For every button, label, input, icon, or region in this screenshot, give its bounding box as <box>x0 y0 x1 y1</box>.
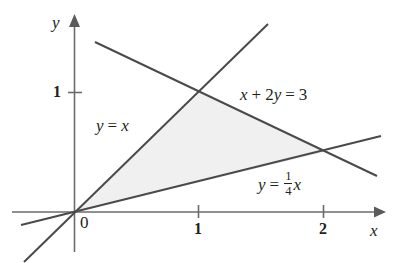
x-axis-label: x <box>370 222 378 239</box>
annotation-y-equals-x-lhs: y <box>96 116 104 135</box>
annotation-x-plus-2y-equals-3: x+2y=3 <box>240 86 307 103</box>
annotation-y-equals-quarter-x: y=14x <box>258 170 301 198</box>
annotation-op-equals: = <box>285 85 295 104</box>
y-axis-arrow-icon <box>69 14 80 27</box>
graph-canvas <box>0 0 412 263</box>
x-tick-label-2: 2 <box>319 221 327 237</box>
annotation-y-equals-x-rhs: x <box>121 116 129 135</box>
origin-label: 0 <box>80 214 89 231</box>
annotation-op-plus: + <box>252 85 262 104</box>
annotation-y-equals-x: y=x <box>96 117 129 134</box>
annotation-y-equals-x-op: = <box>108 116 118 135</box>
annotation-term-x: x <box>240 85 248 104</box>
annotation-quarter-op: = <box>270 175 280 194</box>
y-axis-label: y <box>52 14 60 31</box>
annotation-value-3: 3 <box>299 85 308 104</box>
annotation-coefficient-2: 2 <box>265 85 274 104</box>
annotation-term-y: y <box>274 85 282 104</box>
y-tick-label-1: 1 <box>53 84 61 100</box>
fraction-denominator: 4 <box>284 185 292 198</box>
annotation-quarter-var: x <box>293 175 301 194</box>
fraction-one-quarter: 14 <box>284 170 292 198</box>
x-tick-label-1: 1 <box>194 221 202 237</box>
fraction-numerator: 1 <box>284 170 292 183</box>
annotation-quarter-lhs: y <box>258 175 266 194</box>
math-figure: y x 0 1 1 2 y=x x+2y=3 y=14x <box>0 0 412 263</box>
x-axis-arrow-icon <box>374 207 386 218</box>
